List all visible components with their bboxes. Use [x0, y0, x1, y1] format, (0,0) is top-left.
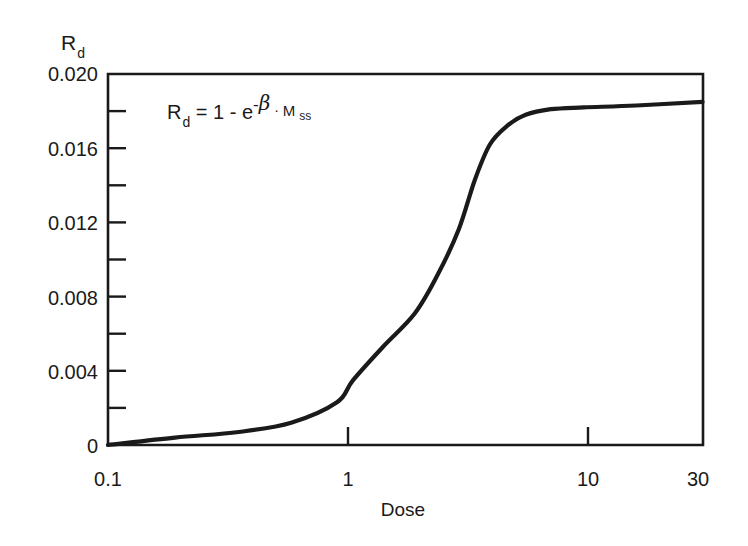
x-tick-label: 0.1	[94, 469, 122, 489]
y-tick-label: 0.016	[48, 139, 98, 159]
formula-r-subscript: d	[182, 114, 190, 130]
formula-annotation: Rd = 1 - e-β · Mss	[167, 102, 311, 122]
plot-border	[108, 74, 703, 445]
formula-beta: β	[259, 91, 271, 115]
data-curve	[108, 102, 703, 445]
formula-m: M	[283, 102, 296, 119]
y-axis-title-subscript: d	[77, 45, 85, 61]
formula-exponent: -β	[253, 95, 270, 114]
y-tick-label: 0	[87, 436, 98, 456]
y-tick-label: 0.012	[48, 213, 98, 233]
y-tick-label: 0.008	[48, 288, 98, 308]
plot-frame	[108, 74, 703, 445]
chart-canvas	[0, 0, 748, 546]
formula-r: R	[167, 101, 181, 123]
formula-dot: ·	[270, 102, 282, 118]
x-tick-label: 30	[687, 469, 709, 489]
y-axis-title-main: R	[61, 31, 76, 54]
x-tick-label: 1	[342, 469, 353, 489]
x-tick-label: 10	[577, 469, 599, 489]
y-tick-label: 0.004	[48, 362, 98, 382]
x-axis-title: Dose	[381, 500, 425, 519]
y-tick-label: 0.020	[48, 64, 98, 84]
formula-m-subscript: ss	[299, 109, 311, 123]
y-axis-title: Rd	[61, 32, 85, 53]
axis-ticks	[108, 111, 588, 445]
formula-equals-one-minus-e: = 1 - e	[190, 101, 253, 123]
